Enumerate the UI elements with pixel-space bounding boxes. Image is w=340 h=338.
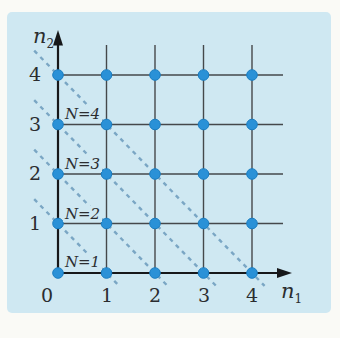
lattice-point-4-0 [247,268,258,279]
constant-N-label-2: N=2 [63,206,102,222]
y-axis-label-base: n [33,24,47,48]
y-tick-4: 4 [17,64,41,84]
lattice-point-1-3 [101,119,112,130]
y-tick-2: 2 [17,163,41,183]
x-axis-label-subscript: 1 [295,292,303,306]
x-axis-label-base: n [281,279,295,303]
lattice-point-0-1 [53,218,64,229]
constant-N-label-4: N=4 [63,106,102,122]
x-tick-1: 1 [95,285,119,305]
lattice-point-3-4 [198,70,209,81]
x-tick-3: 3 [192,285,216,305]
y-tick-1: 1 [17,213,41,233]
lattice-point-2-3 [150,119,161,130]
y-tick-3: 3 [17,114,41,134]
figure-page: n2 n1 4 3 2 1 0 1 2 3 4 N=4 N=3 N=2 N=1 [0,0,340,338]
lattice-point-2-1 [150,218,161,229]
lattice-point-4-2 [247,169,258,180]
lattice-point-4-3 [247,119,258,130]
lattice-point-1-0 [101,268,112,279]
lattice-point-1-2 [101,169,112,180]
lattice-point-3-1 [198,218,209,229]
lattice-point-4-4 [247,70,258,81]
constant-N-label-3: N=3 [63,156,102,172]
lattice-point-1-1 [101,218,112,229]
lattice-point-0-0 [53,268,64,279]
lattice-point-0-3 [53,119,64,130]
lattice-point-2-2 [150,169,161,180]
constant-N-label-1: N=1 [63,254,102,270]
lattice-point-0-2 [53,169,64,180]
x-tick-2: 2 [143,285,167,305]
x-axis-label: n1 [281,280,302,302]
lattice-point-4-1 [247,218,258,229]
lattice-point-3-3 [198,119,209,130]
lattice-point-2-0 [150,268,161,279]
lattice-point-3-0 [198,268,209,279]
lattice-point-1-4 [101,70,112,81]
y-axis-label: n2 [33,25,54,47]
x-tick-0: 0 [35,285,59,305]
lattice-point-2-4 [150,70,161,81]
lattice-point-3-2 [198,169,209,180]
x-tick-4: 4 [240,285,264,305]
y-axis-label-subscript: 2 [47,37,55,51]
lattice-point-0-4 [53,70,64,81]
